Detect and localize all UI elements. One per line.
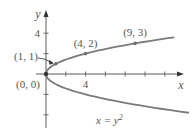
point-label: (4, 2) xyxy=(74,37,98,50)
data-point xyxy=(84,52,88,56)
equation-text: x = y xyxy=(95,114,119,126)
data-point xyxy=(44,72,48,76)
equation-label: x = y2 xyxy=(95,113,123,126)
chart: 44 x y (0, 0)(1, 1)(4, 2)(9, 3) x = y2 xyxy=(0,0,195,140)
data-point xyxy=(133,42,137,46)
y-axis-arrow-icon xyxy=(44,10,49,17)
point-label: (1, 1) xyxy=(14,50,38,63)
x-axis-arrow-icon xyxy=(177,72,184,77)
x-tick-label: 4 xyxy=(83,78,89,90)
y-axis-label: y xyxy=(34,7,41,21)
equation-superscript: 2 xyxy=(119,113,123,122)
point-label: (9, 3) xyxy=(123,26,147,39)
y-tick-label: 4 xyxy=(35,27,41,39)
parabola-curve xyxy=(46,37,189,112)
x-axis-label: x xyxy=(177,78,184,92)
point-label: (0, 0) xyxy=(16,78,40,91)
leader-arrowhead-icon xyxy=(49,60,54,65)
data-point xyxy=(54,62,58,66)
